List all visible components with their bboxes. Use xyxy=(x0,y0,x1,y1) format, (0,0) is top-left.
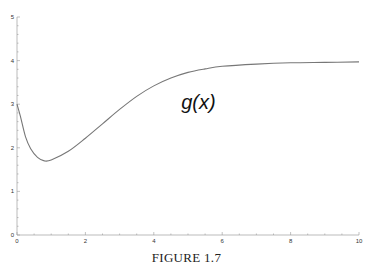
x-tick-label: 2 xyxy=(84,238,88,244)
curve-label: g(x) xyxy=(181,91,215,113)
x-tick-label: 6 xyxy=(221,238,225,244)
y-tick-label: 5 xyxy=(11,14,15,20)
x-tick-label: 10 xyxy=(356,238,363,244)
x-tick-label: 4 xyxy=(152,238,156,244)
y-tick-label: 2 xyxy=(11,145,15,151)
y-tick-label: 1 xyxy=(11,188,15,194)
figure-caption: FIGURE 1.7 xyxy=(0,250,373,266)
x-tick-label: 0 xyxy=(15,238,19,244)
y-tick-label: 3 xyxy=(11,101,15,107)
y-tick-label: 0 xyxy=(11,232,15,238)
y-tick-label: 4 xyxy=(11,58,15,64)
ticks: 0246810012345 xyxy=(11,14,363,244)
axes xyxy=(17,17,359,235)
annotations: g(x) xyxy=(181,91,215,113)
x-tick-label: 8 xyxy=(289,238,293,244)
chart: 0246810012345 g(x) xyxy=(0,0,373,250)
